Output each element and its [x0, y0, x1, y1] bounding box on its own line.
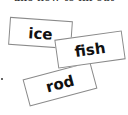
- card-word: rod: [44, 72, 76, 97]
- clipped-heading-text: ake how to fill out: [0, 0, 128, 4]
- bullet-dot: [1, 78, 3, 80]
- card-word: ice: [28, 24, 53, 44]
- card-word: fish: [74, 38, 107, 60]
